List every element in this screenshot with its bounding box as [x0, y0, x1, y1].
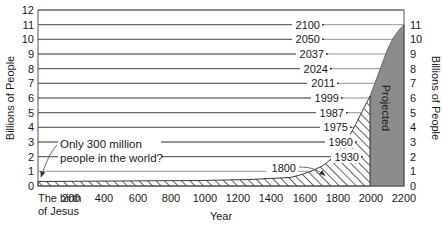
y-axis-right-title: Billions of People [430, 56, 442, 140]
y-tick-right-6: 6 [410, 92, 416, 104]
x-tick-1600: 1600 [293, 192, 317, 204]
milestone-label-1930: 1930 [335, 151, 359, 163]
y-tick-right-8: 8 [410, 63, 416, 75]
x-tick-1400: 1400 [259, 192, 283, 204]
y-tick-left-2: 2 [28, 151, 34, 163]
y-tick-left-5: 5 [28, 107, 34, 119]
callout-line-2: people in the world? [60, 152, 163, 164]
y-tick-right-4: 4 [410, 121, 416, 133]
milestone-label-1999: 1999 [315, 92, 339, 104]
y-tick-right-0: 0 [410, 180, 416, 192]
y-tick-left-9: 9 [28, 48, 34, 60]
population-growth-chart: 12 11 10 9 8 7 6 5 4 3 2 1 0 11 10 9 8 7… [0, 0, 442, 225]
y-tick-left-12: 12 [22, 4, 34, 16]
x-tick-800: 800 [162, 192, 180, 204]
y-axis-left-title: Billions of People [4, 56, 16, 140]
y-tick-left-1: 1 [28, 165, 34, 177]
y-tick-left-11: 11 [23, 19, 34, 31]
milestone-label-2024: 2024 [304, 63, 328, 75]
y-tick-right-2: 2 [410, 151, 416, 163]
projected-region-label: Projected [380, 85, 392, 131]
y-tick-left-6: 6 [28, 92, 34, 104]
y-tick-right-7: 7 [410, 77, 416, 89]
x-tick-400: 400 [95, 192, 113, 204]
milestone-label-1987: 1987 [320, 107, 344, 119]
x-tick-1800: 1800 [326, 192, 350, 204]
milestone-label-1800: 1800 [272, 162, 296, 174]
x-tick-200: 200 [62, 192, 80, 204]
x-tick-2200: 2200 [392, 192, 416, 204]
x-tick-2000: 2000 [359, 192, 383, 204]
y-tick-right-11: 11 [410, 19, 421, 31]
y-axis-left-ticks: 12 11 10 9 8 7 6 5 4 3 2 1 0 [22, 4, 34, 192]
milestone-label-2037: 2037 [300, 48, 324, 60]
y-axis-right-ticks: 11 10 9 8 7 6 5 4 3 2 1 0 [410, 19, 422, 192]
y-tick-right-1: 1 [410, 165, 416, 177]
y-tick-right-3: 3 [410, 136, 416, 148]
x-tick-1200: 1200 [226, 192, 250, 204]
x-tick-1000: 1000 [193, 192, 217, 204]
y-tick-left-7: 7 [28, 77, 34, 89]
callout-line-1: Only 300 million [60, 138, 142, 150]
y-tick-left-4: 4 [28, 121, 34, 133]
y-tick-right-5: 5 [410, 107, 416, 119]
x-tick-600: 600 [129, 192, 147, 204]
milestone-label-1975: 1975 [324, 121, 348, 133]
y-tick-left-0: 0 [28, 180, 34, 192]
y-tick-right-10: 10 [410, 33, 422, 45]
chart-canvas: 12 11 10 9 8 7 6 5 4 3 2 1 0 11 10 9 8 7… [0, 0, 442, 225]
x-tick-origin-line2: of Jesus [38, 205, 79, 217]
y-tick-right-9: 9 [410, 48, 416, 60]
y-tick-left-10: 10 [22, 33, 34, 45]
milestone-label-2050: 2050 [296, 33, 320, 45]
milestone-label-2100: 2100 [296, 19, 320, 31]
x-axis-title: Year [210, 210, 233, 222]
milestone-label-1960: 1960 [329, 136, 353, 148]
y-tick-left-3: 3 [28, 136, 34, 148]
milestone-label-2011: 2011 [311, 77, 335, 89]
y-tick-left-8: 8 [28, 63, 34, 75]
